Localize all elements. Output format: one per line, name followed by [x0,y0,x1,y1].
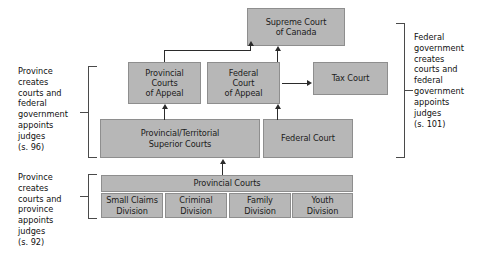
connector-federal-to-fca [277,109,278,120]
division-box-criminal[interactable]: Criminal Division [165,193,227,218]
division-box-family[interactable]: Family Division [229,193,291,218]
bracket-left-s92 [88,174,97,219]
bracket-left-s96 [88,66,97,158]
annotation-left-s92: Province creates courts and province app… [18,172,86,248]
court-box-federal-appeal[interactable]: Federal Court of Appeal [207,62,280,104]
connector-fca-to-scc [277,51,278,62]
court-box-provincial-appeal[interactable]: Provincial Courts of Appeal [128,62,201,104]
court-box-provincial[interactable]: Provincial Courts [101,175,353,192]
bracket-tick-s101 [404,90,413,91]
court-box-tax[interactable]: Tax Court [313,62,388,95]
annotation-left-s96: Province creates courts and federal gove… [18,66,86,153]
annotation-right-s101: Federal government creates courts and fe… [414,32,482,129]
arrow-pca-to-scc [248,41,254,46]
division-box-small-claims[interactable]: Small Claims Division [101,193,163,218]
connector-provincial-to-superior [222,164,223,175]
connector-pca-to-scc-vertical-left [164,50,165,62]
arrow-superior-to-pca [162,104,168,109]
court-box-supreme[interactable]: Supreme Court of Canada [247,8,345,46]
connector-fca-to-tax [282,83,308,84]
arrow-provincial-to-superior [220,159,226,164]
connector-superior-to-pca [164,109,165,120]
arrow-federal-to-fca [275,104,281,109]
court-system-diagram: Supreme Court of Canada Provincial Court… [0,0,483,266]
connector-pca-to-scc-horizontal [164,50,250,51]
connector-pca-to-scc-vertical-right [250,46,251,51]
court-box-superior[interactable]: Provincial/Territorial Superior Courts [100,119,260,158]
arrow-fca-to-scc [275,46,281,51]
division-box-youth[interactable]: Youth Division [292,193,353,218]
arrow-fca-to-tax [307,80,312,86]
court-box-federal[interactable]: Federal Court [263,119,353,158]
